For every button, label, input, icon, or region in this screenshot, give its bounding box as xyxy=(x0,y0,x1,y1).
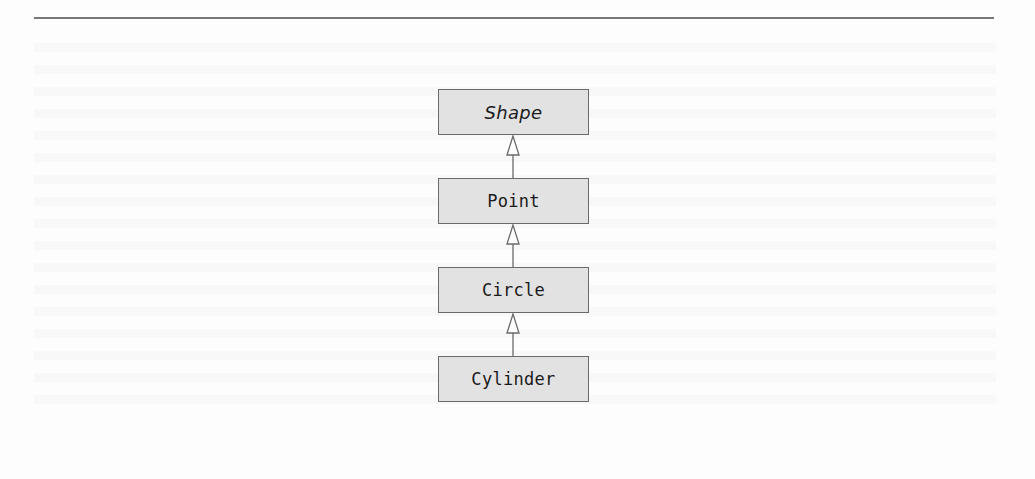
generalization-arrow-icon xyxy=(503,224,523,267)
generalization-arrow-icon xyxy=(503,135,523,178)
class-name-cylinder: Cylinder xyxy=(471,369,555,389)
generalization-arrow-icon xyxy=(503,313,523,356)
class-name-shape: Shape xyxy=(485,102,543,123)
class-box-point: Point xyxy=(438,178,589,224)
class-name-circle: Circle xyxy=(482,280,545,300)
class-box-shape: Shape xyxy=(438,89,589,135)
class-box-circle: Circle xyxy=(438,267,589,313)
class-name-point: Point xyxy=(487,191,540,211)
horizontal-rule xyxy=(34,17,994,19)
class-box-cylinder: Cylinder xyxy=(438,356,589,402)
